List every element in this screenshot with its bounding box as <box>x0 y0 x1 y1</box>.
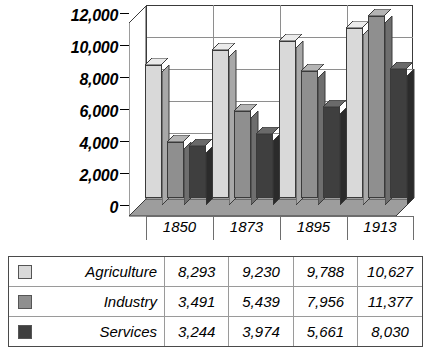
bar-front-face <box>390 69 407 198</box>
bar-agriculture-1895 <box>279 41 296 198</box>
bar-top-face <box>145 58 169 65</box>
bar-front-face <box>368 16 385 198</box>
bar-front-face <box>145 65 162 198</box>
x-tick-label-1913: 1913 <box>347 216 413 238</box>
series-label: Industry <box>104 293 157 310</box>
x-tick-label-1873: 1873 <box>213 216 280 238</box>
bar-top-face <box>256 127 280 134</box>
y-axis-tick <box>120 109 129 110</box>
table-row: Agriculture 8,293 9,230 9,788 10,627 <box>9 257 422 287</box>
legend-swatch-icon <box>18 295 32 309</box>
series-label: Services <box>99 323 157 340</box>
bar-front-face <box>279 41 296 198</box>
bar-top-face <box>301 64 325 71</box>
data-table: Agriculture 8,293 9,230 9,788 10,627 Ind… <box>8 256 423 347</box>
bar-front-face <box>346 28 363 198</box>
bars-layer <box>129 5 413 216</box>
legend-cell-agriculture: Agriculture <box>9 257 165 287</box>
bar-services-1913 <box>390 69 407 198</box>
bar-agriculture-1850 <box>145 65 162 198</box>
table-cell: 9,230 <box>229 257 293 287</box>
bar-top-face <box>346 21 370 28</box>
y-axis-tick <box>120 173 129 174</box>
bar-agriculture-1873 <box>212 50 229 198</box>
table-cell: 11,377 <box>358 287 422 317</box>
table-cell: 5,439 <box>229 287 293 317</box>
legend-swatch-icon <box>18 325 32 339</box>
series-label: Agriculture <box>85 263 157 280</box>
y-tick-label: 6,000 <box>0 104 118 120</box>
table-cell: 10,627 <box>358 257 422 287</box>
legend-cell-services: Services <box>9 317 165 347</box>
y-tick-label: 8,000 <box>0 72 118 88</box>
x-axis-separator <box>413 216 414 240</box>
table-cell: 3,974 <box>229 317 293 347</box>
y-tick-label: 10,000 <box>0 40 118 56</box>
column-chart-3d: 12,000 10,000 8,000 6,000 4,000 2,000 0 <box>0 0 432 240</box>
table-row: Services 3,244 3,974 5,661 8,030 <box>9 317 422 347</box>
bar-industry-1895 <box>301 71 318 198</box>
bar-top-face <box>323 100 347 107</box>
bar-industry-1913 <box>368 16 385 198</box>
x-tick-label-1850: 1850 <box>146 216 213 238</box>
x-tick-label-1895: 1895 <box>280 216 347 238</box>
y-axis-labels: 12,000 10,000 8,000 6,000 4,000 2,000 0 <box>0 0 118 240</box>
table-cell: 5,661 <box>293 317 357 347</box>
table-cell: 7,956 <box>293 287 357 317</box>
y-axis-tick <box>120 205 129 206</box>
y-axis-tick <box>120 45 129 46</box>
y-axis-tick <box>120 141 129 142</box>
plot-area <box>129 5 413 215</box>
bar-front-face <box>323 107 340 198</box>
bar-top-face <box>368 9 392 16</box>
bar-top-face <box>234 104 258 111</box>
table-cell: 9,788 <box>293 257 357 287</box>
bar-top-face <box>189 139 213 146</box>
bar-services-1873 <box>256 134 273 198</box>
bar-front-face <box>212 50 229 198</box>
bar-front-face <box>167 142 184 198</box>
table-cell: 3,491 <box>165 287 229 317</box>
y-axis-tick <box>120 77 129 78</box>
bar-services-1895 <box>323 107 340 198</box>
legend-swatch-icon <box>18 265 32 279</box>
bar-top-face <box>167 135 191 142</box>
table-cell: 3,244 <box>165 317 229 347</box>
bar-services-1850 <box>189 146 206 198</box>
bar-industry-1850 <box>167 142 184 198</box>
y-axis-tick <box>120 13 129 14</box>
bar-front-face <box>301 71 318 198</box>
table-row: Industry 3,491 5,439 7,956 11,377 <box>9 287 422 317</box>
bar-side-face <box>407 69 414 198</box>
y-tick-label: 4,000 <box>0 136 118 152</box>
y-tick-label: 0 <box>0 200 118 216</box>
chart-page: 12,000 10,000 8,000 6,000 4,000 2,000 0 <box>0 0 432 363</box>
bar-top-face <box>390 62 414 69</box>
bar-front-face <box>256 134 273 198</box>
bar-top-face <box>279 34 303 41</box>
legend-cell-industry: Industry <box>9 287 165 317</box>
y-tick-label: 2,000 <box>0 168 118 184</box>
bar-industry-1873 <box>234 111 251 198</box>
y-tick-label: 12,000 <box>0 8 118 24</box>
bar-agriculture-1913 <box>346 28 363 198</box>
table-cell: 8,293 <box>165 257 229 287</box>
bar-front-face <box>189 146 206 198</box>
table-cell: 8,030 <box>358 317 422 347</box>
bar-top-face <box>212 43 236 50</box>
x-axis-labels: 1850 1873 1895 1913 <box>129 216 413 240</box>
bar-front-face <box>234 111 251 198</box>
